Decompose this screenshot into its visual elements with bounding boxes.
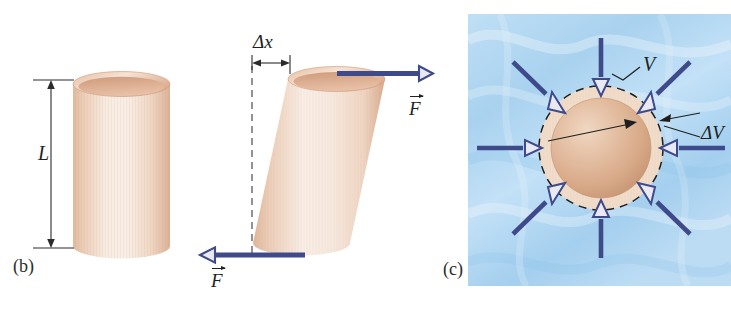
delta-x-label: Δx	[253, 31, 273, 53]
force-label-bottom-letter: F	[211, 271, 223, 290]
physics-figure: (b) L Δx F F (c) V ΔV	[0, 0, 731, 330]
volume-label: V	[643, 53, 655, 76]
panel-label-b: (b)	[13, 256, 34, 277]
length-label: L	[38, 142, 49, 165]
panel-label-c: (c)	[443, 259, 463, 280]
delta-x-arrowhead-right	[281, 59, 290, 66]
vector-arrow-icon	[211, 264, 223, 271]
length-arrowhead-bottom	[47, 239, 55, 248]
force-label-top-letter: F	[409, 99, 421, 118]
force-label-top: F	[409, 92, 421, 118]
length-arrowhead-top	[47, 80, 55, 89]
volume-change-label: ΔV	[701, 122, 724, 144]
figure-artwork	[0, 0, 731, 330]
delta-x-arrowhead-left	[252, 59, 261, 66]
force-label-bottom: F	[211, 264, 223, 290]
upright-cylinder	[73, 72, 170, 259]
vector-arrow-icon	[409, 92, 421, 99]
sheared-cylinder	[253, 67, 385, 256]
